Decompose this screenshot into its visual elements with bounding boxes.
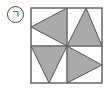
pinwheel-figure bbox=[0, 0, 109, 92]
